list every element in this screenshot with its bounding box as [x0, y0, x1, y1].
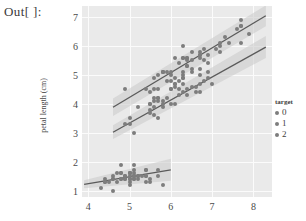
- scatter-point: [156, 73, 160, 77]
- scatter-point: [132, 131, 136, 135]
- legend-item[interactable]: 2: [274, 129, 306, 140]
- legend-item-label: 1: [282, 119, 287, 128]
- scatter-point: [223, 35, 227, 39]
- scatter-point: [99, 186, 103, 190]
- scatter-point: [194, 85, 198, 89]
- scatter-point: [202, 47, 206, 51]
- scatter-point: [206, 53, 210, 57]
- scatter-point: [169, 79, 173, 83]
- scatter-point: [173, 102, 177, 106]
- scatter-point: [173, 85, 177, 89]
- scatter-point: [198, 90, 202, 94]
- legend-marker-icon: [275, 122, 279, 126]
- scatter-point: [194, 90, 198, 94]
- legend-items: 012: [274, 107, 306, 140]
- scatter-point: [128, 122, 132, 126]
- scatter-point: [136, 105, 140, 109]
- scatter-point: [181, 44, 185, 48]
- y-tick-label: 6: [73, 40, 78, 51]
- legend-marker-icon: [275, 133, 279, 137]
- scatter-point: [198, 82, 202, 86]
- scatter-point: [181, 82, 185, 86]
- data-layer: [82, 6, 272, 197]
- y-tick-label: 7: [73, 12, 78, 23]
- scatter-point: [132, 171, 136, 175]
- scatter-point: [206, 61, 210, 65]
- legend-item[interactable]: 0: [274, 107, 306, 118]
- scatter-point: [239, 18, 243, 22]
- scatter-point: [210, 82, 214, 86]
- scatter-point: [165, 70, 169, 74]
- scatter-point: [156, 174, 160, 178]
- plot-area: [82, 6, 272, 197]
- scatter-point: [111, 177, 115, 181]
- scatter-point: [148, 111, 152, 115]
- scatter-point: [123, 87, 127, 91]
- scatter-point: [144, 168, 148, 172]
- legend-title: target: [275, 98, 306, 106]
- scatter-point: [161, 102, 165, 106]
- scatter-point: [107, 180, 111, 184]
- scatter-point: [156, 116, 160, 120]
- scatter-point: [128, 177, 132, 181]
- scatter-point: [152, 87, 156, 91]
- scatter-point: [169, 87, 173, 91]
- scatter-point: [156, 168, 160, 172]
- y-tick-label: 3: [73, 127, 78, 138]
- x-tick-label: 8: [251, 201, 256, 212]
- legend-item-label: 2: [282, 130, 287, 139]
- scatter-point: [111, 189, 115, 193]
- legend-marker-icon: [275, 111, 279, 115]
- regression-lines-layer: [82, 6, 272, 197]
- scatter-point: [198, 73, 202, 77]
- scatter-point: [239, 41, 243, 45]
- scatter-point: [119, 163, 123, 167]
- scatter-point: [181, 73, 185, 77]
- y-tick-label: 2: [73, 156, 78, 167]
- scatter-point: [128, 116, 132, 120]
- y-tick-label: 5: [73, 69, 78, 80]
- scatter-point: [152, 76, 156, 80]
- scatter-point: [198, 67, 202, 71]
- scatter-point: [239, 24, 243, 28]
- scatter-point: [190, 50, 194, 54]
- scatter-point: [156, 99, 160, 103]
- scatter-point: [206, 76, 210, 80]
- scatter-point: [115, 180, 119, 184]
- scatter-point: [247, 32, 251, 36]
- legend: target 012: [274, 98, 306, 140]
- x-tick-label: 7: [210, 201, 215, 212]
- scatter-point: [148, 180, 152, 184]
- scatter-point: [140, 174, 144, 178]
- scatter-point: [148, 102, 152, 106]
- y-axis-label: petal length (cm): [39, 46, 48, 166]
- scatter-point: [190, 67, 194, 71]
- scatter-point: [177, 79, 181, 83]
- scatter-point: [185, 58, 189, 62]
- chart-figure: 1234567 45678 petal length (cm) target 0…: [0, 0, 306, 221]
- scatter-point: [173, 76, 177, 80]
- scatter-point: [103, 180, 107, 184]
- scatter-point: [218, 50, 222, 54]
- y-tick-label: 1: [73, 185, 78, 196]
- scatter-point: [202, 79, 206, 83]
- scatter-point: [156, 87, 160, 91]
- scatter-point: [165, 96, 169, 100]
- scatter-point: [206, 70, 210, 74]
- scatter-point: [198, 53, 202, 57]
- scatter-point: [148, 90, 152, 94]
- scatter-point: [177, 61, 181, 65]
- notebook-output-cell: Out[ ]: 1234567 45678 petal length (cm) …: [0, 0, 306, 221]
- y-axis-tick-labels: 1234567: [62, 0, 78, 221]
- scatter-point: [177, 93, 181, 97]
- scatter-point: [190, 58, 194, 62]
- x-axis-tick-labels: 45678: [0, 201, 306, 217]
- y-tick-label: 4: [73, 98, 78, 109]
- x-tick-label: 4: [86, 201, 91, 212]
- scatter-point: [161, 183, 165, 187]
- scatter-point: [132, 163, 136, 167]
- scatter-point: [218, 44, 222, 48]
- legend-item[interactable]: 1: [274, 118, 306, 129]
- x-tick-label: 5: [127, 201, 132, 212]
- scatter-point: [152, 105, 156, 109]
